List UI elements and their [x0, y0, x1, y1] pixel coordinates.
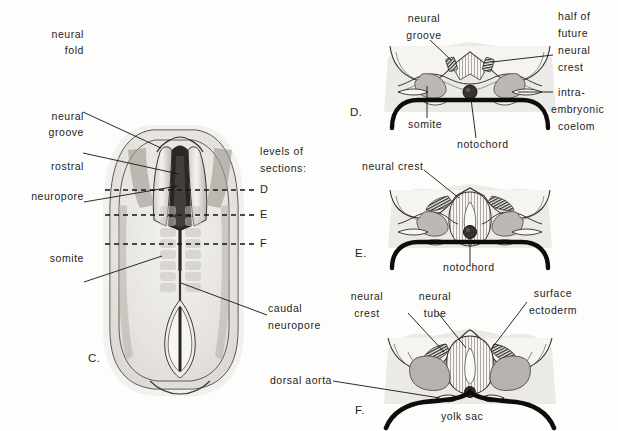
figure-artwork — [0, 0, 618, 431]
label-intraembryonic-coelom-line1: intra- — [558, 86, 585, 100]
label-neural-tube-line2: tube — [404, 307, 466, 321]
label-neural-tube-line1: neural — [404, 290, 466, 304]
panel-letter-d: D. — [350, 106, 363, 118]
label-neural-groove-d-line1: neural — [393, 12, 455, 26]
section-level-letter-f: F — [260, 237, 267, 249]
label-half-future-crest-line2: future — [558, 27, 588, 41]
label-surface-ectoderm-line2: ectoderm — [505, 304, 601, 318]
label-rostral-neuropore-line1: rostral — [18, 160, 84, 174]
panel-letter-f: F. — [355, 404, 365, 416]
label-half-future-crest-line3: neural — [558, 44, 591, 58]
label-neural-groove-c-line1: neural — [18, 110, 84, 124]
label-somite-c: somite — [18, 252, 84, 266]
label-neural-groove-c-line2: groove — [18, 126, 84, 140]
levels-caption-line2: sections: — [260, 162, 306, 176]
panel-letter-c: C. — [88, 352, 101, 364]
label-dorsal-aorta: dorsal aorta — [248, 374, 332, 388]
notochord-e — [464, 226, 477, 239]
label-surface-ectoderm-line1: surface — [505, 287, 601, 301]
label-neural-crest-f-line2: crest — [336, 307, 398, 321]
label-neural-fold-line2: fold — [18, 44, 84, 58]
label-caudal-neuropore-line1: caudal — [268, 302, 302, 316]
label-notochord-e: notochord — [443, 261, 495, 275]
panel-c-artwork — [83, 112, 267, 396]
label-caudal-neuropore-line2: neuropore — [268, 319, 321, 333]
label-intraembryonic-coelom-line3: coelom — [558, 120, 595, 134]
notochord-d — [463, 85, 477, 99]
label-neural-fold-line1: neural — [18, 28, 84, 42]
embryology-figure: neural fold neural groove rostral neurop… — [0, 0, 618, 431]
label-half-future-crest-line1: half of — [558, 10, 590, 24]
section-level-letter-d: D — [260, 183, 268, 195]
label-neural-groove-d-line2: groove — [393, 29, 455, 43]
label-neural-crest-f-line1: neural — [336, 290, 398, 304]
levels-caption-line1: levels of — [260, 145, 303, 159]
panel-e-artwork — [388, 170, 552, 268]
label-notochord-d: notochord — [457, 138, 509, 152]
label-yolk-sac: yolk sac — [441, 410, 483, 424]
label-intraembryonic-coelom-line2: embryonic — [551, 103, 604, 117]
panel-letter-e: E. — [355, 247, 367, 259]
section-level-letter-e: E — [260, 208, 267, 220]
label-half-future-crest-line4: crest — [558, 61, 584, 75]
label-somite-d: somite — [408, 118, 442, 132]
label-rostral-neuropore-line2: neuropore — [2, 190, 84, 204]
label-neural-crest-e: neural crest — [362, 160, 423, 174]
